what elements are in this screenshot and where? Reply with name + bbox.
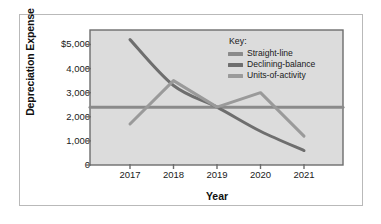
chart-legend: Key: Straight-lineDeclining-balanceUnits…: [228, 36, 315, 81]
legend-swatch-icon: [228, 52, 243, 56]
legend-title: Key:: [228, 36, 315, 46]
legend-item: Straight-line: [228, 48, 315, 59]
legend-swatch-icon: [228, 74, 243, 78]
legend-items: Straight-lineDeclining-balanceUnits-of-a…: [228, 48, 315, 81]
legend-item-label: Units-of-activity: [247, 70, 306, 81]
legend-item: Declining-balance: [228, 59, 315, 70]
chart-figure: Depreciation Expense Year $5,0004,0003,0…: [0, 0, 381, 224]
plot-area: [0, 0, 381, 224]
legend-item-label: Straight-line: [247, 48, 293, 59]
legend-item-label: Declining-balance: [247, 59, 315, 70]
legend-item: Units-of-activity: [228, 70, 315, 81]
legend-swatch-icon: [228, 63, 243, 67]
